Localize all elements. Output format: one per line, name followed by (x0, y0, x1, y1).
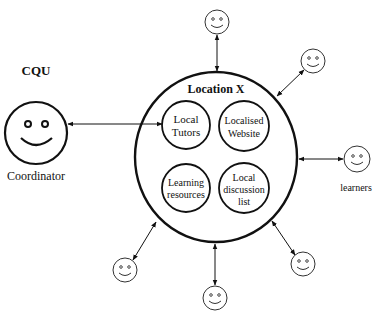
svg-text:Local: Local (173, 113, 198, 125)
learner-link-arrow-lower-left (133, 222, 156, 260)
learner-smiley-icon (205, 10, 229, 34)
svg-text:resources: resources (167, 189, 205, 200)
svg-text:Local: Local (233, 172, 256, 183)
coordinator-role-label: Coordinator (7, 169, 65, 183)
learner-smiley-icon (203, 286, 227, 310)
component-learning-resources: Learning resources (162, 164, 210, 212)
learner-smiley-icon (301, 49, 325, 73)
svg-text:list: list (238, 196, 250, 207)
coordinator-node: CQU Coordinator (5, 63, 67, 183)
learners-label: learners (340, 182, 372, 193)
component-local-discussion-list: Local discussion list (219, 163, 269, 213)
learner-smiley-icon (344, 146, 370, 172)
component-local-tutors: Local Tutors (162, 101, 210, 149)
diagram-canvas: CQU Coordinator Location X Local Tutors … (0, 0, 380, 312)
location-title: Location X (188, 82, 245, 96)
svg-text:Localised: Localised (225, 115, 264, 126)
learner-smiley-icon (291, 252, 315, 276)
coordinator-smiley-icon (5, 102, 67, 164)
svg-text:Tutors: Tutors (172, 126, 200, 138)
location-node: Location X Local Tutors Localised Websit… (135, 72, 297, 242)
svg-text:Learning: Learning (168, 177, 204, 188)
learner-link-arrow-lower-right (272, 221, 295, 255)
learner-smiley-icon (113, 258, 137, 282)
component-localised-website: Localised Website (219, 101, 269, 151)
svg-text:Website: Website (228, 128, 261, 139)
learner-link-arrow-upper-right (277, 70, 304, 96)
coordinator-org-label: CQU (22, 63, 52, 78)
svg-text:discussion: discussion (223, 184, 265, 195)
